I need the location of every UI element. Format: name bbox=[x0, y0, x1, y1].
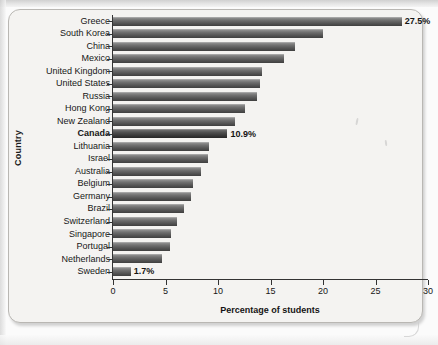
y-axis-label-switzerland: Switzerland bbox=[26, 215, 110, 228]
bar-row bbox=[113, 165, 428, 178]
y-tick bbox=[107, 247, 112, 248]
y-tick bbox=[107, 71, 112, 72]
bar-row: 27.5% bbox=[113, 15, 428, 28]
bar-row bbox=[113, 78, 428, 91]
x-tick-label: 20 bbox=[318, 286, 328, 296]
bar-israel bbox=[113, 154, 208, 163]
y-tick bbox=[107, 184, 112, 185]
bar-switzerland bbox=[113, 217, 177, 226]
x-tick-label: 30 bbox=[423, 286, 433, 296]
bar-row bbox=[113, 240, 428, 253]
bar-row: 1.7% bbox=[113, 265, 428, 278]
x-tick bbox=[218, 280, 219, 285]
bar-brazil bbox=[113, 204, 184, 213]
x-tick bbox=[113, 280, 114, 285]
bar-row bbox=[113, 115, 428, 128]
bar-china bbox=[113, 42, 295, 51]
bar-united-kingdom bbox=[113, 67, 262, 76]
y-tick bbox=[107, 96, 112, 97]
y-tick bbox=[107, 272, 112, 273]
y-axis-label-russia: Russia bbox=[26, 90, 110, 103]
x-tick-label: 15 bbox=[265, 286, 275, 296]
bar-south-korea bbox=[113, 29, 323, 38]
y-axis-label-brazil: Brazil bbox=[26, 203, 110, 216]
x-tick bbox=[271, 280, 272, 285]
y-axis-label-united-kingdom: United Kingdom bbox=[26, 65, 110, 78]
bar-lithuania bbox=[113, 142, 209, 151]
y-axis-title: Country bbox=[13, 130, 23, 166]
y-axis-label-portugal: Portugal bbox=[26, 240, 110, 253]
y-tick bbox=[107, 84, 112, 85]
bar-mexico bbox=[113, 54, 284, 63]
bar-row bbox=[113, 253, 428, 266]
bar-greece bbox=[113, 17, 402, 26]
bar-row bbox=[113, 228, 428, 241]
bar-row: 10.9% bbox=[113, 128, 428, 141]
bar-row bbox=[113, 178, 428, 191]
bar-row bbox=[113, 140, 428, 153]
bar-row bbox=[113, 190, 428, 203]
y-axis-label-lithuania: Lithuania bbox=[26, 140, 110, 153]
bar-value-label: 1.7% bbox=[134, 265, 155, 278]
y-tick bbox=[107, 209, 112, 210]
bar-germany bbox=[113, 192, 191, 201]
y-tick bbox=[107, 234, 112, 235]
bar-hong-kong bbox=[113, 104, 245, 113]
bar-singapore bbox=[113, 229, 171, 238]
y-tick bbox=[107, 222, 112, 223]
x-tick-label: 0 bbox=[110, 286, 115, 296]
y-axis-label-united-states: United States bbox=[26, 78, 110, 91]
bar-sweden bbox=[113, 267, 131, 276]
bar-row bbox=[113, 28, 428, 41]
y-axis-category-labels: GreeceSouth KoreaChinaMexicoUnited Kingd… bbox=[26, 15, 110, 278]
x-tick bbox=[323, 280, 324, 285]
bar-new-zealand bbox=[113, 117, 235, 126]
y-axis-label-netherlands: Netherlands bbox=[26, 253, 110, 266]
page-corner-mark bbox=[404, 322, 419, 337]
y-tick bbox=[107, 197, 112, 198]
bar-row bbox=[113, 40, 428, 53]
bar-row bbox=[113, 203, 428, 216]
y-tick bbox=[107, 259, 112, 260]
y-tick bbox=[107, 159, 112, 160]
y-tick bbox=[107, 172, 112, 173]
bar-portugal bbox=[113, 242, 170, 251]
y-tick bbox=[107, 109, 112, 110]
bar-russia bbox=[113, 92, 257, 101]
y-axis-label-israel: Israel bbox=[26, 153, 110, 166]
bar-canada bbox=[113, 129, 227, 138]
y-axis-label-hong-kong: Hong Kong bbox=[26, 103, 110, 116]
y-axis-label-singapore: Singapore bbox=[26, 228, 110, 241]
bar-australia bbox=[113, 167, 201, 176]
bar-value-label: 10.9% bbox=[230, 128, 256, 141]
y-axis-label-australia: Australia bbox=[26, 165, 110, 178]
x-tick bbox=[166, 280, 167, 285]
x-tick-label: 10 bbox=[213, 286, 223, 296]
y-tick bbox=[107, 121, 112, 122]
y-axis-label-mexico: Mexico bbox=[26, 53, 110, 66]
bar-netherlands bbox=[113, 254, 162, 263]
y-axis-label-canada: Canada bbox=[26, 128, 110, 141]
bar-row bbox=[113, 90, 428, 103]
y-axis-label-new-zealand: New Zealand bbox=[26, 115, 110, 128]
bar-chart: Country GreeceSouth KoreaChinaMexicoUnit… bbox=[0, 0, 438, 345]
y-tick bbox=[107, 34, 112, 35]
y-tick bbox=[107, 59, 112, 60]
x-tick-label: 25 bbox=[370, 286, 380, 296]
bar-belgium bbox=[113, 179, 193, 188]
x-axis-title: Percentage of students bbox=[220, 305, 320, 315]
x-tick bbox=[428, 280, 429, 285]
bar-value-label: 27.5% bbox=[405, 15, 431, 28]
bars-container: 27.5%10.9%1.7% bbox=[113, 15, 428, 279]
bar-row bbox=[113, 53, 428, 66]
bar-row bbox=[113, 153, 428, 166]
y-axis-label-germany: Germany bbox=[26, 190, 110, 203]
x-tick-label: 5 bbox=[163, 286, 168, 296]
y-axis-label-south-korea: South Korea bbox=[26, 28, 110, 41]
y-tick bbox=[107, 21, 112, 22]
y-axis-label-greece: Greece bbox=[26, 15, 110, 28]
y-tick bbox=[107, 46, 112, 47]
bar-united-states bbox=[113, 79, 260, 88]
bar-row bbox=[113, 65, 428, 78]
bar-row bbox=[113, 215, 428, 228]
